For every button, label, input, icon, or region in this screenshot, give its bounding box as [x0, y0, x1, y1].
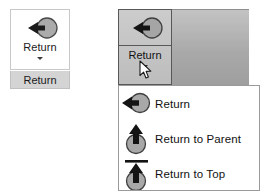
active-state-example: Return Return Return to Parent: [118, 9, 260, 191]
return-split-button-active[interactable]: Return: [118, 9, 172, 85]
return-dropdown-menu: Return Return to Parent Return to Top: [118, 85, 260, 191]
caption-label-box: Return: [10, 71, 70, 89]
return-arrow-circle-icon: [11, 15, 69, 41]
return-to-parent-up-arrow-icon: [119, 122, 155, 155]
menu-item-return[interactable]: Return: [119, 86, 259, 121]
return-arrow-circle-icon: [119, 15, 171, 41]
chevron-down-icon[interactable]: [142, 65, 148, 68]
menu-item-label: Return: [155, 98, 190, 110]
menu-item-return-to-top[interactable]: Return to Top: [119, 156, 259, 191]
normal-state-example: Return Return: [10, 9, 72, 90]
return-button-label: Return: [119, 49, 171, 62]
return-button-icon-area[interactable]: [119, 10, 171, 46]
menu-item-label: Return to Parent: [155, 133, 241, 145]
return-split-button-normal[interactable]: Return: [10, 9, 70, 70]
menu-item-label: Return to Top: [155, 168, 225, 180]
return-to-top-arrow-bar-icon: [119, 157, 155, 190]
chevron-down-icon[interactable]: [37, 57, 43, 60]
return-button-label: Return: [11, 41, 69, 54]
caption-label-text: Return: [23, 74, 56, 86]
return-arrow-circle-icon: [119, 87, 155, 120]
menu-item-return-to-parent[interactable]: Return to Parent: [119, 121, 259, 156]
